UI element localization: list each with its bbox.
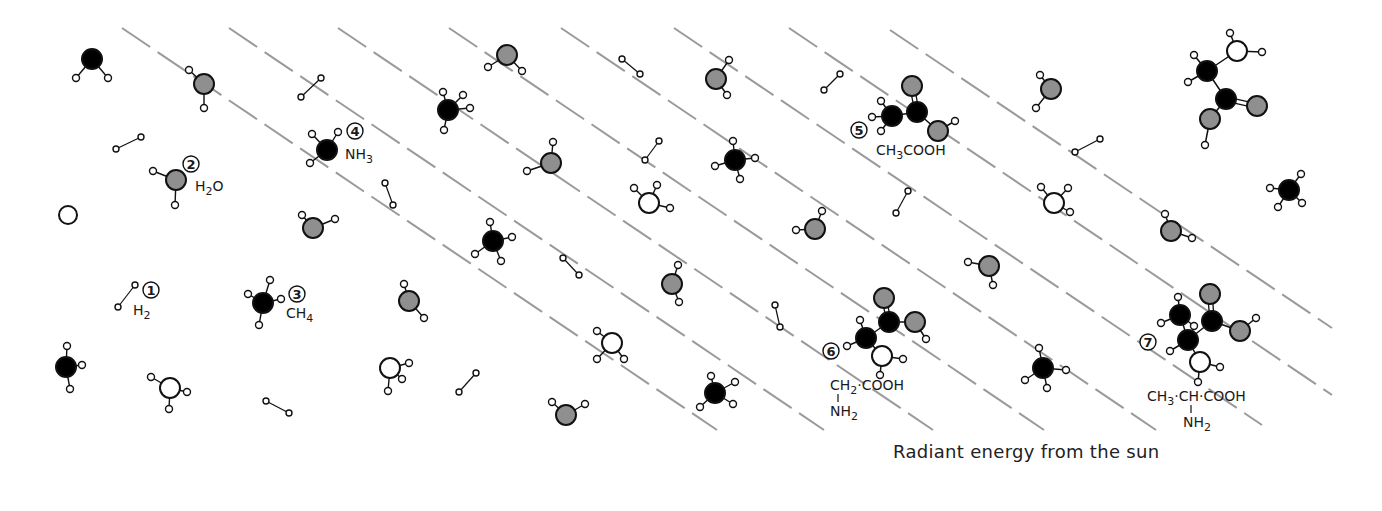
hydrogen-atom — [113, 146, 119, 152]
carbon-atom — [1033, 358, 1053, 378]
bond — [116, 137, 141, 149]
hydrogen-atom — [1036, 345, 1043, 352]
hydrogen-atom — [1038, 184, 1045, 191]
carbon-atom — [1202, 311, 1222, 331]
hydrogen-atom — [390, 202, 396, 208]
label-ammonia: 4NH3 — [345, 123, 373, 166]
hydrogen-atom — [730, 138, 737, 145]
molecule-h2o — [186, 67, 215, 112]
hydrogen-atom — [732, 379, 739, 386]
oxygen-atom — [166, 170, 186, 190]
carbon-atom — [725, 150, 745, 170]
molecule-h2o — [1033, 72, 1062, 112]
hydrogen-atom — [456, 389, 462, 395]
formula-label: NH2 — [830, 403, 858, 423]
hydrogen-atom — [857, 317, 864, 324]
carbon-atom — [82, 49, 102, 69]
hydrogen-atom — [990, 282, 997, 289]
hydrogen-atom — [278, 296, 285, 303]
hydrogen-atom — [1202, 142, 1209, 149]
hydrogen-atom — [1191, 52, 1198, 59]
formula-label: NH2 — [1183, 414, 1211, 434]
nitrogen-atom — [872, 346, 892, 366]
molecule-h2o — [73, 49, 112, 82]
hydrogen-atom — [64, 343, 71, 350]
hydrogen-atom — [549, 399, 556, 406]
hydrogen-atom — [132, 282, 138, 288]
molecule-h2 — [113, 134, 144, 152]
hydrogen-atom — [1158, 320, 1165, 327]
hydrogen-atom — [79, 362, 86, 369]
hydrogen-atom — [1065, 185, 1072, 192]
hydrogen-atom — [385, 388, 392, 395]
label-methane: 3CH4 — [286, 286, 313, 325]
hydrogen-atom — [172, 202, 179, 209]
label-water: 2H2O — [183, 156, 224, 198]
hydrogen-atom — [441, 127, 448, 134]
hydrogen-atom — [837, 71, 843, 77]
hydrogen-atom — [487, 219, 494, 226]
oxygen-atom — [194, 74, 214, 94]
hydrogen-atom — [473, 370, 479, 376]
hydrogen-atom — [1033, 105, 1040, 112]
bond — [896, 191, 908, 213]
hydrogen-atom — [399, 376, 406, 383]
molecule-h2 — [263, 398, 292, 416]
hydrogen-atom — [166, 406, 173, 413]
molecule-h2 — [298, 75, 324, 100]
hydrogen-atom — [298, 94, 304, 100]
hydrogen-atom — [582, 401, 589, 408]
ray-line-4 — [449, 28, 1044, 430]
oxygen-atom — [1247, 96, 1267, 116]
oxygen-atom — [1041, 79, 1061, 99]
hydrogen-atom — [1195, 379, 1202, 386]
carbon-atom — [1170, 305, 1190, 325]
molecule-h2o — [965, 256, 1000, 289]
molecule-n — [59, 206, 77, 224]
formula-label: CH2·COOH — [830, 377, 904, 397]
hydrogen-atom — [148, 374, 155, 381]
molecule-h2o — [662, 262, 683, 306]
molecule-nh3 — [380, 358, 413, 395]
molecule-h2 — [456, 370, 479, 395]
molecule-h2o — [706, 57, 733, 99]
molecule-h2o — [549, 399, 589, 426]
hydrogen-atom — [631, 185, 638, 192]
hydrogen-atom — [844, 343, 851, 350]
hydrogen-atom — [772, 302, 778, 308]
hydrogen-atom — [965, 259, 972, 266]
hydrogen-atom — [309, 131, 316, 138]
nitrogen-atom — [59, 206, 77, 224]
hydrogen-atom — [697, 404, 704, 411]
hydrogen-atom — [724, 92, 731, 99]
bond — [266, 401, 289, 413]
hydrogen-atom — [1275, 204, 1282, 211]
hydrogen-atom — [524, 168, 531, 175]
caption-radiant-energy: Radiant energy from the sun — [893, 441, 1159, 462]
hydrogen-atom — [460, 92, 467, 99]
ray-line-8 — [890, 30, 1332, 328]
oxygen-atom — [706, 69, 726, 89]
carbon-atom — [705, 383, 725, 403]
hydrogen-atom — [878, 128, 885, 135]
hydrogen-atom — [67, 386, 74, 393]
hydrogen-atom — [1267, 185, 1274, 192]
hydrogen-atom — [1191, 323, 1198, 330]
carbon-atom — [1197, 61, 1217, 81]
oxygen-atom — [541, 153, 561, 173]
oxygen-atom — [905, 312, 925, 332]
molecule-ch4 — [472, 219, 516, 265]
oxygen-atom — [979, 256, 999, 276]
ray-line-3 — [338, 28, 933, 430]
number-label: 4 — [350, 124, 359, 139]
hydrogen-atom — [708, 373, 715, 380]
hydrogen-atom — [335, 129, 342, 136]
nitrogen-atom — [160, 378, 180, 398]
carbon-atom — [1178, 330, 1198, 350]
number-label: 2 — [186, 157, 195, 172]
hydrogen-atom — [1162, 211, 1169, 218]
hydrogen-atom — [150, 168, 157, 175]
oxygen-atom — [303, 218, 323, 238]
molecule-nh3 — [148, 374, 191, 413]
hydrogen-atom — [401, 281, 408, 288]
